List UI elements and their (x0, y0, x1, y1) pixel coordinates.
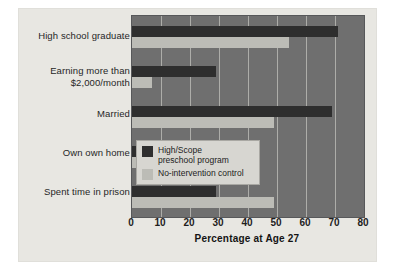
category-label-own-own-home: Own own home (63, 147, 130, 159)
legend-swatch-icon-dark (142, 146, 153, 157)
x-tick-0: 0 (128, 217, 134, 228)
x-tick-80: 80 (357, 217, 368, 228)
bar-group (132, 106, 364, 134)
chart-legend: High/Scope preschool program No-interven… (136, 140, 260, 185)
x-tick-40: 40 (241, 217, 252, 228)
bar (132, 117, 274, 128)
category-label-married: Married (97, 108, 130, 120)
x-tick-20: 20 (183, 217, 194, 228)
bar (132, 37, 289, 48)
bar (132, 66, 216, 77)
x-axis-tick-labels: 01020304050607080 (131, 217, 363, 231)
legend-item-high-scope-preschool-program: High/Scope preschool program (142, 145, 254, 165)
x-tick-50: 50 (270, 217, 281, 228)
bar-group (132, 66, 364, 94)
legend-label-high-scope-preschool-program: High/Scope preschool program (158, 145, 229, 165)
chart-card: High school graduate Earning more than $… (19, 9, 376, 261)
x-tick-30: 30 (212, 217, 223, 228)
category-label-column: High school graduate Earning more than $… (25, 13, 130, 212)
plot-area (131, 15, 365, 218)
x-tick-10: 10 (154, 217, 165, 228)
bar (132, 186, 216, 197)
bar (132, 77, 152, 88)
legend-swatch-icon-light (142, 169, 153, 180)
category-label-earning-more-than-2000-month: Earning more than $2,000/month (50, 65, 130, 88)
plot-inner (132, 16, 364, 217)
legend-label-no-intervention-control: No-intervention control (158, 168, 244, 178)
category-label-spent-time-in-prison: Spent time in prison (44, 186, 130, 198)
bar (132, 26, 338, 37)
bar (132, 197, 274, 208)
x-tick-70: 70 (328, 217, 339, 228)
category-label-high-school-graduate: High school graduate (38, 30, 130, 42)
bar-group (132, 186, 364, 214)
legend-item-no-intervention-control: No-intervention control (142, 168, 254, 180)
x-tick-60: 60 (299, 217, 310, 228)
bar (132, 106, 332, 117)
bar-group (132, 26, 364, 54)
x-axis-title: Percentage at Age 27 (131, 233, 363, 244)
figure-container: High school graduate Earning more than $… (0, 0, 393, 274)
